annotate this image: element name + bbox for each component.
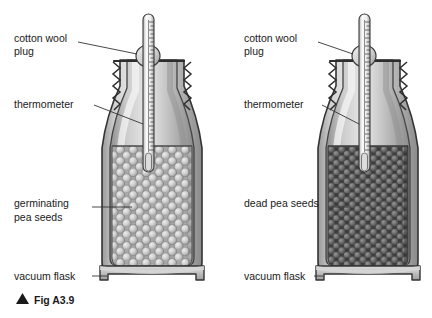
label-contents: dead pea seeds (244, 197, 319, 209)
label-cotton-wool-plug-line2: plug (14, 45, 34, 57)
thermometer-bulb (146, 153, 152, 171)
thermometer-bulb (362, 153, 368, 171)
label-vacuum-flask: vacuum flask (244, 270, 306, 282)
label-thermometer: thermometer (244, 98, 304, 110)
label-cotton-wool-plug-line1: cotton wool (244, 32, 297, 44)
figure-diagram: cotton wool plug thermometer germinating… (0, 0, 432, 318)
label-thermometer: thermometer (14, 98, 74, 110)
label-contents-line2: pea seeds (14, 211, 62, 223)
thermometer (359, 14, 370, 172)
caption-text: Fig A3.9 (34, 294, 75, 306)
label-vacuum-flask: vacuum flask (14, 270, 76, 282)
label-cotton-wool-plug-line2: plug (244, 45, 264, 57)
thermometer (143, 14, 154, 172)
label-contents-line1: germinating (14, 197, 69, 209)
label-cotton-wool-plug-line1: cotton wool (14, 32, 67, 44)
